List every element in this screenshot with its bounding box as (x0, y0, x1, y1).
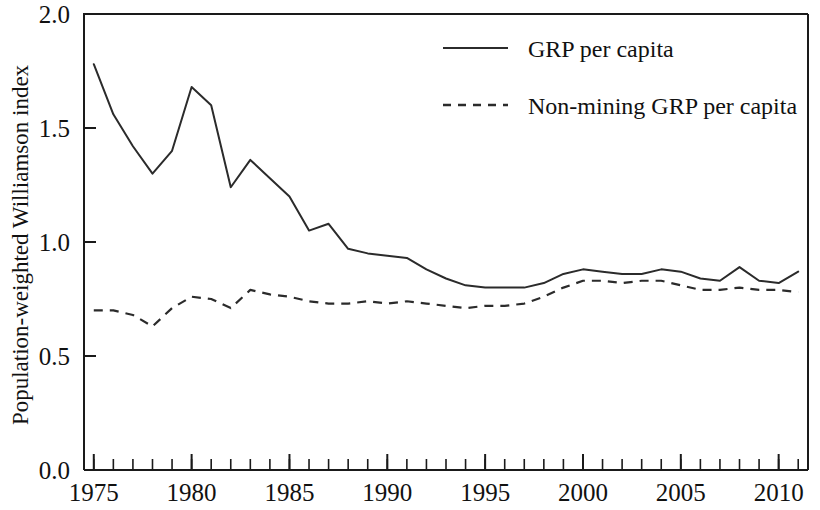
series-non-mining-grp-per-capita (94, 281, 798, 327)
chart-legend: GRP per capita Non-mining GRP per capita (443, 36, 797, 119)
x-tick-label-1985: 1985 (264, 479, 314, 506)
y-tick-label-1.5: 1.5 (39, 115, 70, 142)
legend-label-non-mining-grp-per-capita: Non-mining GRP per capita (528, 93, 797, 119)
y-tick-label-1.0: 1.0 (39, 229, 70, 256)
x-axis-tick-labels: 19751980198519901995200020052010 (69, 479, 804, 506)
y-tick-label-2.0: 2.0 (39, 1, 70, 28)
y-tick-label-0.0: 0.0 (39, 457, 70, 484)
x-tick-label-1975: 1975 (69, 479, 119, 506)
x-tick-label-1990: 1990 (362, 479, 412, 506)
y-axis-title: Population-weighted Williamson index (8, 64, 33, 425)
x-tick-label-2000: 2000 (558, 479, 608, 506)
chart-canvas: 0.00.51.01.52.0 197519801985199019952000… (0, 0, 820, 510)
y-axis-title-text: Population-weighted Williamson index (8, 64, 33, 425)
legend-label-grp-per-capita: GRP per capita (528, 36, 674, 62)
y-tick-label-0.5: 0.5 (39, 343, 70, 370)
x-tick-label-2005: 2005 (656, 479, 706, 506)
x-axis-minor-ticks (94, 459, 798, 470)
x-tick-label-2010: 2010 (754, 479, 804, 506)
x-axis-major-ticks (94, 454, 779, 470)
y-axis-tick-labels: 0.00.51.01.52.0 (39, 1, 70, 484)
y-axis-ticks (84, 14, 96, 470)
x-tick-label-1995: 1995 (460, 479, 510, 506)
williamson-index-chart: 0.00.51.01.52.0 197519801985199019952000… (0, 0, 820, 510)
plot-frame (84, 14, 808, 470)
x-tick-label-1980: 1980 (167, 479, 217, 506)
